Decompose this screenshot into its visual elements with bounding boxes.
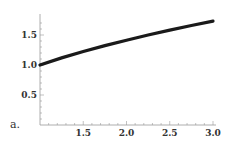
axes xyxy=(40,14,216,125)
line-chart: 0.51.01.51.52.02.53.0 xyxy=(0,0,228,155)
x-tick-label: 2.0 xyxy=(119,128,135,138)
x-tick-label: 3.0 xyxy=(205,128,221,138)
x-tick-label: 2.5 xyxy=(162,128,178,138)
y-tick-label: 0.5 xyxy=(21,90,37,100)
data-line xyxy=(40,21,213,65)
tick-labels: 0.51.01.51.52.02.53.0 xyxy=(21,30,221,138)
x-tick-label: 1.5 xyxy=(75,128,91,138)
ticks xyxy=(40,23,213,125)
panel-label: a. xyxy=(10,118,20,131)
y-tick-label: 1.5 xyxy=(21,30,37,40)
y-tick-label: 1.0 xyxy=(21,60,37,70)
